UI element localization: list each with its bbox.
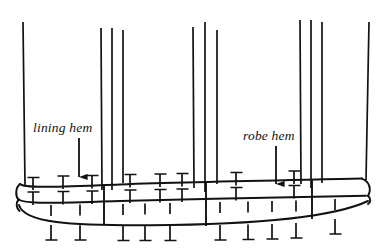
seam-line-1 bbox=[101, 28, 102, 190]
vertical-seam-line-group bbox=[23, 20, 369, 192]
right-edge-line bbox=[366, 22, 369, 180]
stitch-upper-6 bbox=[177, 174, 189, 187]
hem-diagram-figure: lining hem robe hem bbox=[0, 0, 392, 249]
stitch-upper-8 bbox=[289, 171, 301, 184]
hem-right-closure bbox=[362, 179, 370, 196]
stitch-lower-4 bbox=[140, 226, 152, 241]
fold-edge-stitch-group bbox=[46, 219, 342, 241]
robe-hem-label: robe hem bbox=[243, 128, 295, 144]
stitch-upper-7 bbox=[231, 173, 243, 186]
seam-line-7 bbox=[300, 20, 301, 184]
lining-hem-label: lining hem bbox=[33, 120, 92, 136]
robe-hem-curve bbox=[19, 196, 367, 203]
callout-arrow-group bbox=[79, 138, 276, 184]
stitch-lower-9 bbox=[291, 223, 303, 238]
stitch-upper-5 bbox=[155, 174, 167, 187]
stitch-upper-1 bbox=[28, 178, 40, 191]
stitch-lower-1 bbox=[46, 225, 58, 240]
stitch-lower-8 bbox=[267, 224, 279, 239]
stitch-lower-7 bbox=[243, 225, 255, 240]
stitch-lower-3 bbox=[118, 226, 130, 241]
stitch-upper-4 bbox=[125, 175, 137, 188]
left-edge-line bbox=[23, 22, 25, 185]
stitch-lower-6 bbox=[215, 225, 227, 240]
stitch-lower-2 bbox=[75, 225, 87, 240]
fold-edge-curve bbox=[19, 201, 368, 225]
stitch-lower-5 bbox=[165, 226, 177, 241]
stitch-lower-10 bbox=[330, 219, 342, 234]
hem-right-closure-lower bbox=[368, 196, 370, 204]
seam-line-4 bbox=[193, 27, 194, 188]
hem-left-closure bbox=[16, 184, 20, 200]
